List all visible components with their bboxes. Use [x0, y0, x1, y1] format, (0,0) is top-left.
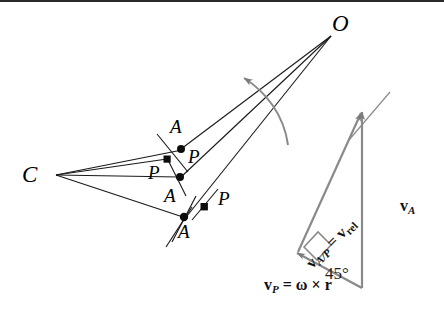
label-O: O	[332, 12, 349, 35]
line-o-to-upper	[181, 36, 331, 149]
point-markers	[164, 145, 208, 221]
vA-subscript: A	[408, 204, 415, 216]
vP-bold-v: v	[264, 276, 272, 293]
line-o-to-middle	[181, 36, 331, 177]
o-fan-lines	[181, 36, 331, 216]
label-A2: A	[164, 186, 176, 205]
label-A3: A	[178, 222, 190, 241]
label-C: C	[22, 163, 37, 186]
apex-guide-line	[349, 92, 390, 140]
label-angle-45: 45°	[325, 265, 349, 282]
line-c-to-upper	[56, 150, 182, 175]
dot-A2	[176, 173, 184, 181]
omega-symbol: ω	[296, 276, 308, 293]
vP-equals: =	[283, 276, 292, 293]
vA-bold-v: v	[400, 197, 408, 214]
label-P3: P	[218, 189, 230, 208]
transversal-upper	[157, 134, 188, 172]
dot-A3	[180, 213, 188, 221]
label-P2: P	[188, 147, 200, 166]
label-A1: A	[170, 117, 182, 136]
line-c-to-middle	[56, 175, 179, 177]
kinematics-figure: O C A P P A P A vA vA/P = vrel vP = ω × …	[0, 0, 444, 323]
vP-subscript: P	[272, 283, 279, 295]
line-o-to-lower	[187, 36, 331, 216]
dot-P3	[201, 203, 208, 210]
label-P1: P	[148, 163, 160, 182]
cross-product-symbol: ×	[312, 276, 321, 293]
dot-A1	[177, 145, 185, 153]
dot-P1	[164, 156, 171, 163]
figure-canvas	[0, 0, 444, 323]
label-vector-vA: vA	[400, 198, 415, 216]
label-vector-vP: vP = ω × r	[264, 277, 332, 295]
